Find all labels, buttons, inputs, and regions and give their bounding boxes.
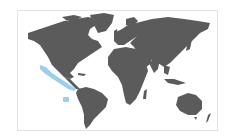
cuba — [78, 73, 86, 76]
land-masses — [28, 13, 211, 129]
range-offshore-patch — [63, 97, 69, 102]
indonesia — [164, 79, 186, 85]
tasmania — [194, 117, 197, 120]
south-america — [76, 87, 108, 129]
madagascar — [143, 89, 147, 99]
africa — [108, 47, 148, 105]
southeast-asia — [164, 65, 170, 75]
britain — [114, 29, 118, 36]
india — [150, 59, 160, 73]
new-zealand — [206, 113, 211, 123]
north-america — [28, 17, 102, 79]
australia — [176, 93, 202, 115]
world-map — [18, 11, 219, 132]
greenland — [90, 13, 114, 33]
map-frame — [17, 10, 218, 131]
